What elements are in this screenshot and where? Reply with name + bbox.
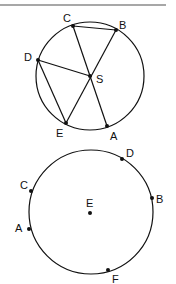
point-b <box>150 196 154 200</box>
figure-2: D C B E A F <box>15 147 163 284</box>
figure-1: C B D S E A <box>24 12 144 142</box>
label-b: B <box>156 193 163 205</box>
segment-ds <box>38 60 90 76</box>
point-c <box>29 189 33 193</box>
point-e <box>64 121 68 125</box>
point-b <box>114 28 118 32</box>
geometry-figures: C B D S E A D C B E A F <box>0 0 176 284</box>
point-a <box>105 124 109 128</box>
label-e: E <box>86 197 93 209</box>
label-a: A <box>110 130 118 142</box>
label-e: E <box>56 127 63 139</box>
label-c: C <box>20 179 28 191</box>
label-d: D <box>24 51 32 63</box>
label-b: B <box>119 19 126 31</box>
chord-cb <box>73 26 116 30</box>
point-c <box>71 24 75 28</box>
point-f <box>106 268 110 272</box>
label-f: F <box>112 273 119 284</box>
label-s: S <box>96 73 103 85</box>
label-d: D <box>126 147 134 159</box>
point-d <box>120 157 124 161</box>
point-e <box>88 211 92 215</box>
point-d <box>36 58 40 62</box>
label-c: C <box>63 12 71 24</box>
label-a: A <box>15 222 23 234</box>
point-s <box>88 74 92 78</box>
point-a <box>27 227 31 231</box>
